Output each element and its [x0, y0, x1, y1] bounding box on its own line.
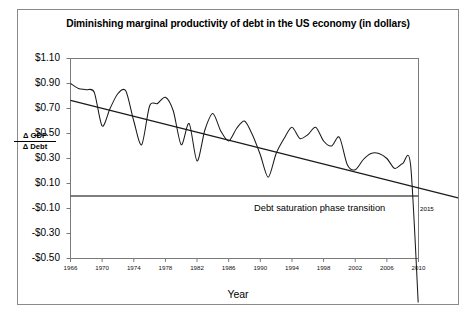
- x-tick-label: 2002: [340, 264, 370, 271]
- y-tick-label: $0.50: [14, 127, 60, 138]
- x-tick-label: 1990: [245, 264, 275, 271]
- y-tick-label: $0.70: [14, 102, 60, 113]
- y-tick-label: -$0.30: [14, 227, 60, 238]
- x-tick-label: 2010: [404, 264, 434, 271]
- y-tick-label: -$0.50: [14, 252, 60, 263]
- x-tick-label: 1994: [277, 264, 307, 271]
- y-tick-label: $0.10: [14, 177, 60, 188]
- y-tick-label: -$0.10: [14, 202, 60, 213]
- x-tick-label: 1970: [87, 264, 117, 271]
- plot-frame: [71, 59, 419, 259]
- y-tick-label: $0.90: [14, 77, 60, 88]
- plot-area: [0, 0, 476, 321]
- x-tick-label: 1966: [56, 264, 86, 271]
- y-tick-label: $0.30: [14, 152, 60, 163]
- y-tick-label: $1.10: [14, 52, 60, 63]
- x-tick-label: 2006: [372, 264, 402, 271]
- x-tick-label: 1978: [150, 264, 180, 271]
- x-tick-label: 1986: [214, 264, 244, 271]
- x-tick-label: 1998: [309, 264, 339, 271]
- trend-line: [71, 100, 459, 198]
- x-tick-label: 1982: [182, 264, 212, 271]
- x-tick-label: 1974: [119, 264, 149, 271]
- chart-svg: [0, 0, 476, 321]
